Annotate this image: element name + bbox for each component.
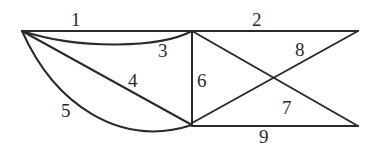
edge-label-2: 2	[252, 9, 262, 30]
edge-label-3: 3	[158, 40, 168, 61]
edge-label-1: 1	[71, 9, 81, 30]
edge-label-7: 7	[282, 97, 292, 118]
edge-label-9: 9	[259, 126, 269, 147]
edge-label-6: 6	[197, 70, 207, 91]
edge-label-5: 5	[61, 100, 71, 121]
graph-diagram: 1 2 3 4 5 6 7 8 9	[0, 0, 378, 153]
edge-label-4: 4	[128, 70, 138, 91]
edge-label-8: 8	[295, 39, 305, 60]
